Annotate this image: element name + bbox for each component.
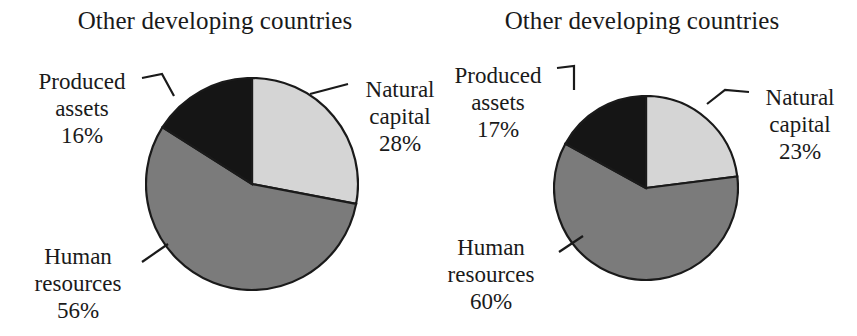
pie-chart-figure: Other developing countries Produced asse… <box>0 0 857 336</box>
callout-natural-capital-name-line1: Natural <box>745 84 855 111</box>
leader-line-human-resources-left <box>140 240 182 270</box>
callout-human-resources-value: 56% <box>8 297 148 324</box>
leader-line-natural-capital-left <box>308 76 360 102</box>
callout-produced-assets-name-line2: assets <box>16 95 148 122</box>
callout-human-resources-right: Human resources 60% <box>421 234 561 315</box>
callout-produced-assets-value: 16% <box>16 122 148 149</box>
callout-produced-assets-value: 17% <box>432 116 564 143</box>
callout-natural-capital-value: 23% <box>745 138 855 165</box>
callout-produced-assets-name-line2: assets <box>432 89 564 116</box>
callout-produced-assets-right: Produced assets 17% <box>432 62 564 143</box>
chart-panel-right: Other developing countries Produced asse… <box>427 0 857 336</box>
leader-line-human-resources-right <box>557 232 597 260</box>
leader-line-produced-assets-right <box>555 60 595 100</box>
leader-line-natural-capital-right <box>705 82 755 112</box>
callout-natural-capital-right: Natural capital 23% <box>745 84 855 165</box>
chart-title-left: Other developing countries <box>0 6 430 36</box>
callout-human-resources-name-line2: resources <box>421 261 561 288</box>
callout-human-resources-name-line1: Human <box>421 234 561 261</box>
callout-produced-assets-left: Produced assets 16% <box>16 68 148 149</box>
callout-natural-capital-name-line2: capital <box>745 111 855 138</box>
chart-panel-left: Other developing countries Produced asse… <box>0 0 430 336</box>
callout-human-resources-name-line2: resources <box>8 270 148 297</box>
callout-human-resources-name-line1: Human <box>8 243 148 270</box>
callout-human-resources-value: 60% <box>421 288 561 315</box>
leader-line-produced-assets-left <box>140 66 200 108</box>
callout-produced-assets-name-line1: Produced <box>432 62 564 89</box>
callout-produced-assets-name-line1: Produced <box>16 68 148 95</box>
callout-human-resources-left: Human resources 56% <box>8 243 148 324</box>
chart-title-right: Other developing countries <box>427 6 857 36</box>
